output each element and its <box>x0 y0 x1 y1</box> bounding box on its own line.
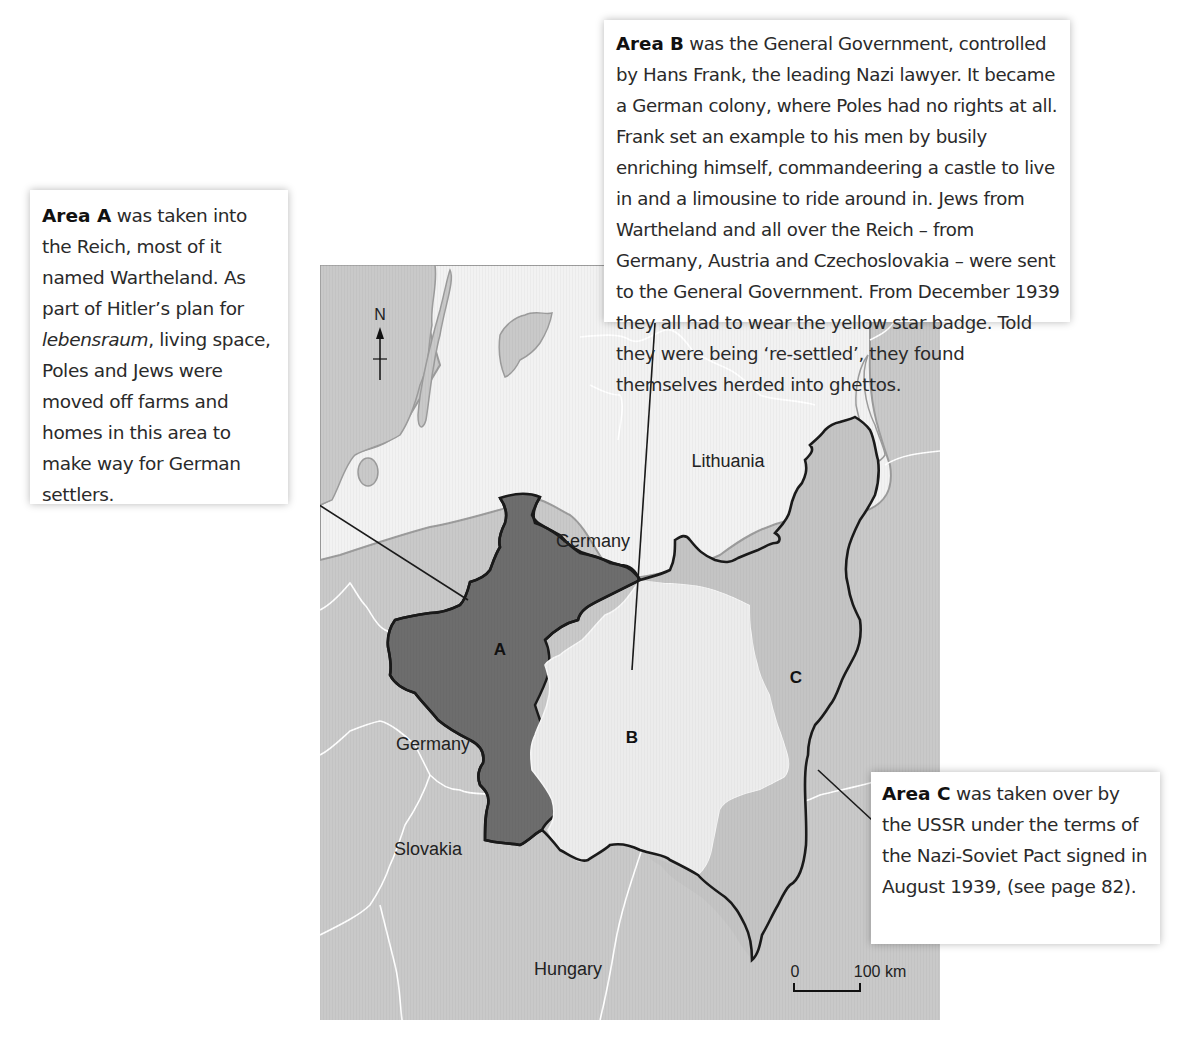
callout-area-b-text: was the General Government, controlled b… <box>616 33 1060 395</box>
callout-area-b: Area B was the General Government, contr… <box>604 20 1070 322</box>
label-germany-west: Germany <box>396 734 470 754</box>
callout-area-a-text-cont: , living space, Poles and Jews were move… <box>42 329 271 505</box>
label-slovakia: Slovakia <box>394 839 463 859</box>
label-hungary: Hungary <box>534 959 602 979</box>
callout-area-b-heading: Area B <box>616 33 684 54</box>
label-lithuania: Lithuania <box>691 451 765 471</box>
callout-area-c-heading: Area C <box>882 783 951 804</box>
callout-area-c: Area C was taken over by the USSR under … <box>871 772 1160 944</box>
callout-area-a-heading: Area A <box>42 205 111 226</box>
callout-area-a-italic-term: lebensraum <box>42 329 148 350</box>
svg-text:100 km: 100 km <box>854 963 906 980</box>
label-germany-north: Germany <box>556 531 630 551</box>
svg-text:0: 0 <box>791 963 800 980</box>
region-b-label: B <box>626 728 638 747</box>
region-a-label: A <box>494 640 506 659</box>
callout-area-a: Area A was taken into the Reich, most of… <box>30 190 288 504</box>
svg-text:N: N <box>374 306 386 323</box>
region-c-label: C <box>790 668 802 687</box>
